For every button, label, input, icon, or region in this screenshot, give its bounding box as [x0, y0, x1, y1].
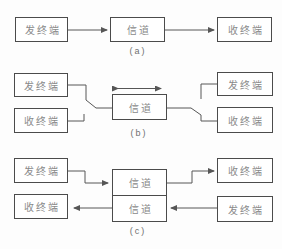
- node-b-channel: 信道: [112, 94, 167, 120]
- wire-c-send-to-forward-channel: [68, 171, 108, 183]
- node-c-channel-forward: 信道: [112, 169, 167, 196]
- node-b-left-receive-terminal: 收终端: [14, 108, 68, 133]
- communication-modes-figure: 发终端 信道 收终端 (a) 发终端 收终端 信道 发终端 收终端 (b) 发终…: [0, 0, 282, 249]
- node-c-right-send-terminal: 发终端: [217, 196, 273, 222]
- caption-a: (a): [118, 46, 158, 56]
- node-c-right-receive-terminal: 收终端: [217, 158, 273, 183]
- node-a-send-terminal: 发终端: [15, 17, 68, 42]
- node-b-right-receive-terminal: 收终端: [217, 107, 273, 133]
- node-a-channel: 信道: [110, 17, 165, 42]
- wire-c-forward-channel-to-receive: [167, 171, 214, 183]
- node-c-left-send-terminal: 发终端: [14, 158, 68, 183]
- node-b-left-send-terminal: 发终端: [14, 73, 68, 97]
- node-a-receive-terminal: 收终端: [217, 17, 272, 42]
- node-c-left-receive-terminal: 收终端: [14, 194, 68, 219]
- wire-b-left-receive-open-contact: [68, 114, 84, 121]
- wire-b-left-send-switch-to-channel: [68, 85, 112, 108]
- wire-b-right-send-open-contact: [201, 84, 217, 99]
- caption-b: (b): [119, 128, 159, 138]
- node-b-right-send-terminal: 发终端: [217, 72, 273, 96]
- node-c-channel-reverse: 信道: [112, 195, 167, 222]
- wire-b-channel-switch-to-right-receive: [167, 108, 217, 121]
- caption-c: (c): [118, 226, 158, 236]
